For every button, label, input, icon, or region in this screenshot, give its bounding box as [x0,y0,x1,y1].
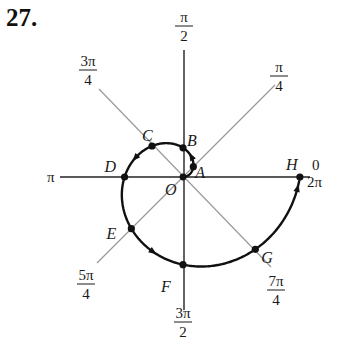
point-f [179,261,186,268]
svg-text:0: 0 [312,157,320,173]
angle-label-pi-2: π2 [175,9,193,44]
svg-text:π: π [47,169,55,185]
angle-label-0: 02π [307,157,323,190]
point-label-b: B [187,132,197,149]
svg-text:4: 4 [82,286,90,302]
svg-text:7π: 7π [268,273,284,289]
point-label-c: C [142,127,153,144]
point-b [179,144,186,151]
point-label-g: G [261,249,273,266]
svg-text:π: π [180,9,188,25]
angle-label-5pi-4: 5π4 [77,267,95,302]
point-d [121,173,128,180]
angle-label-pi-4: π4 [270,59,288,94]
svg-text:5π: 5π [78,267,94,283]
point-label-a: A [194,164,205,181]
curve-points: ABCDEFGH [104,127,304,295]
svg-text:2: 2 [179,324,187,340]
svg-text:π: π [275,59,283,75]
point-label-d: D [104,158,117,175]
svg-text:4: 4 [275,78,283,94]
origin-point [180,174,187,181]
point-e [128,225,135,232]
point-g [252,246,259,253]
point-label-f: F [160,278,171,295]
point-label-e: E [105,225,116,242]
point-label-h: H [285,156,299,173]
svg-text:2π: 2π [307,174,323,190]
svg-text:4: 4 [84,72,92,88]
origin-label: O [165,181,177,198]
angle-label-3pi-2: 3π2 [174,305,192,340]
angle-label-7pi-4: 7π4 [267,273,285,308]
point-h [296,173,303,180]
angle-label-3pi-4: 3π4 [79,53,97,88]
polar-spiral-diagram: ABCDEFGH 02ππ4π23π4π5π43π27π4 O [0,0,348,353]
angle-label-pi: π [47,169,55,185]
svg-text:3π: 3π [175,305,191,321]
svg-text:4: 4 [272,292,280,308]
svg-text:2: 2 [180,28,188,44]
svg-text:3π: 3π [80,53,96,69]
axes [60,50,310,310]
